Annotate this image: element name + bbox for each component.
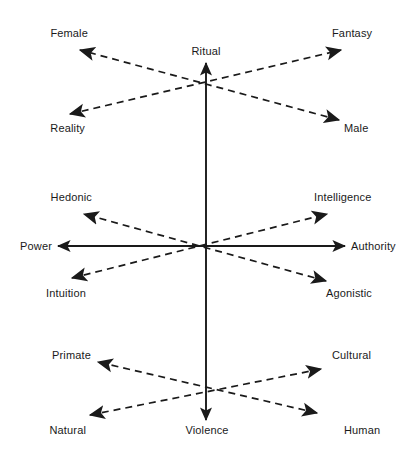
axis-label-power: Power: [0, 240, 52, 253]
axis-line-female-male: [80, 50, 339, 120]
axis-label-cultural: Cultural: [332, 349, 411, 362]
axis-label-female: Female: [0, 27, 88, 40]
conceptual-axis-diagram: Female Fantasy Ritual Reality Male Hedon…: [0, 0, 411, 462]
axis-label-hedonic: Hedonic: [0, 191, 92, 204]
axis-label-agonistic: Agonistic: [326, 287, 411, 300]
axis-label-fantasy: Fantasy: [332, 27, 411, 40]
diagram-canvas: [0, 0, 411, 462]
axis-label-human: Human: [344, 424, 411, 437]
axis-label-intelligence: Intelligence: [314, 191, 411, 204]
axis-label-ritual: Ritual: [176, 45, 236, 58]
axis-line-hedonic-agonistic: [84, 214, 326, 281]
axis-label-primate: Primate: [0, 349, 91, 362]
axis-label-natural: Natural: [0, 424, 86, 437]
axis-label-male: Male: [344, 122, 411, 135]
axis-label-authority: Authority: [351, 240, 411, 253]
middle-dashed-axes-group: [72, 214, 327, 281]
axis-line-primate-human: [98, 362, 317, 413]
solid-axes-group: [58, 63, 345, 420]
axis-label-reality: Reality: [0, 122, 85, 135]
axis-label-intuition: Intuition: [0, 287, 86, 300]
axis-label-violence: Violence: [176, 424, 238, 437]
